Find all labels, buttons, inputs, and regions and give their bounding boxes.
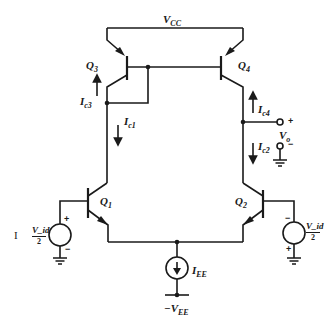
margin-mark: I xyxy=(14,230,18,241)
circuit-wires xyxy=(0,0,331,325)
vo-plus: + xyxy=(288,117,293,126)
right-source-plus: + xyxy=(286,245,291,254)
left-source-minus: − xyxy=(65,245,70,254)
ic3-label: Ic3 xyxy=(80,96,92,110)
left-source-plus: + xyxy=(64,215,69,224)
right-source-minus: − xyxy=(285,214,290,223)
ic1-label: Ic1 xyxy=(124,116,136,130)
ic2-label: Ic2 xyxy=(258,141,270,155)
vee-label: −VEE xyxy=(164,303,189,317)
q4-label: Q4 xyxy=(238,60,250,74)
circuit-diagram: VCC Q3 Q4 Ic3 Ic1 Ic4 Ic2 + Vo − Q1 Q2 +… xyxy=(0,0,331,325)
vo-minus: − xyxy=(288,140,293,149)
left-source xyxy=(49,224,71,246)
ic4-label: Ic4 xyxy=(258,104,270,118)
vcc-label: VCC xyxy=(163,14,181,28)
left-vid-fraction: V_id2 xyxy=(32,226,46,246)
q2-label: Q2 xyxy=(235,196,247,210)
q1-label: Q1 xyxy=(100,196,112,210)
iee-label: IEE xyxy=(192,265,207,279)
right-vid-fraction: V_id2 xyxy=(306,222,320,242)
q3-label: Q3 xyxy=(86,60,98,74)
right-source xyxy=(283,222,305,244)
